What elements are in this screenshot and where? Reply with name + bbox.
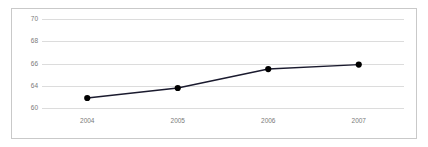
y-axis-tick-label: 60	[31, 105, 38, 112]
y-axis-tick-label: 66	[31, 60, 38, 67]
x-axis-tick-label: 2007	[352, 118, 366, 125]
y-axis-tick-label: 64	[31, 83, 38, 90]
data-point-marker	[356, 62, 362, 68]
plot-area	[42, 19, 404, 108]
data-point-marker	[265, 66, 271, 72]
x-axis-tick-label: 2004	[80, 118, 94, 125]
y-axis-tick-label: 70	[31, 16, 38, 23]
line-chart-figure: 7068666460 2004200520062007	[0, 0, 428, 147]
y-axis-tick-label: 68	[31, 38, 38, 45]
data-point-marker	[84, 95, 90, 101]
x-axis: 2004200520062007	[42, 118, 404, 130]
series-line	[87, 65, 359, 98]
x-axis-tick-label: 2005	[171, 118, 185, 125]
data-point-marker	[175, 85, 181, 91]
series-markers	[84, 62, 362, 102]
gridline	[42, 108, 404, 109]
data-series-layer	[42, 19, 404, 108]
x-axis-tick-label: 2006	[261, 118, 275, 125]
y-axis: 7068666460	[18, 19, 38, 108]
